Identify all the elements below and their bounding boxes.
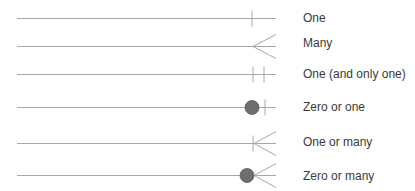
label-one: One (303, 11, 326, 25)
zero-circle-icon (245, 101, 259, 115)
crows-foot-icon-upper (254, 164, 276, 176)
zero-circle-icon (240, 169, 254, 183)
crows-foot-icon-lower (254, 144, 276, 156)
label-one-or-many: One or many (303, 135, 372, 149)
label-one-and-only-one: One (and only one) (303, 67, 406, 81)
crows-foot-icon-lower (253, 47, 276, 59)
label-zero-or-many: Zero or many (303, 169, 374, 183)
label-many: Many (303, 36, 332, 50)
crows-foot-icon-upper (254, 132, 276, 144)
label-zero-or-one: Zero or one (303, 100, 365, 114)
crows-foot-icon-upper (253, 35, 276, 47)
notation-diagram (0, 0, 415, 191)
crows-foot-icon-lower (254, 176, 276, 188)
